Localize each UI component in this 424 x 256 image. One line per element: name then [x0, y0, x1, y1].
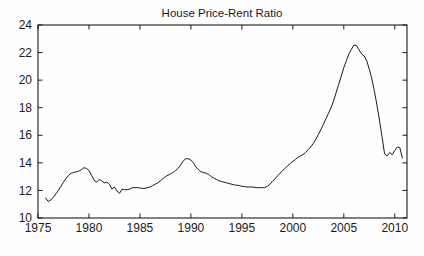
x-tick-label: 1980 [76, 221, 103, 235]
x-tick-label: 1995 [229, 221, 256, 235]
x-tick-label: 2010 [381, 221, 408, 235]
data-series-group [46, 45, 403, 201]
y-tick-label: 18 [19, 101, 33, 115]
y-tick-label: 20 [19, 73, 33, 87]
y-tick-label: 22 [19, 46, 33, 60]
y-tick-label: 24 [19, 18, 33, 32]
chart-title-group: House Price-Rent Ratio [162, 7, 283, 19]
plot-frame [38, 25, 407, 218]
chart-title: House Price-Rent Ratio [162, 7, 283, 19]
x-tick-label: 1990 [178, 221, 205, 235]
y-tick-label: 14 [19, 156, 33, 170]
y-axis-tick-labels: 1012141618202224 [19, 18, 33, 225]
y-tick-label: 12 [19, 184, 33, 198]
x-tick-label: 1985 [127, 221, 154, 235]
house-price-rent-ratio-chart: House Price-Rent Ratio 19751980198519901… [0, 0, 424, 256]
y-tick-label: 10 [19, 211, 33, 225]
y-axis-ticks [38, 25, 407, 218]
x-axis-ticks [38, 25, 395, 218]
y-tick-label: 16 [19, 128, 33, 142]
x-axis-tick-labels: 19751980198519901995200020052010 [25, 221, 409, 235]
x-tick-label: 2000 [279, 221, 306, 235]
series-line [46, 45, 403, 201]
chart-page: House Price-Rent Ratio 19751980198519901… [0, 0, 424, 256]
x-tick-label: 2005 [330, 221, 357, 235]
